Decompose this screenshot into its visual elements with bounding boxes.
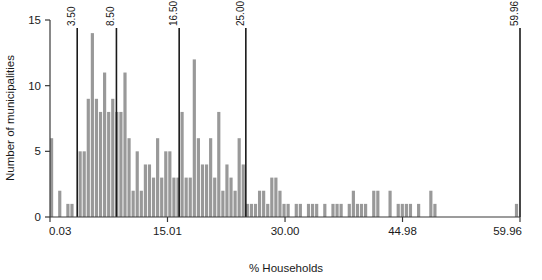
histogram-bar	[123, 73, 126, 217]
histogram-bar	[234, 191, 237, 217]
histogram-bar	[266, 204, 269, 217]
histogram-bar	[274, 178, 277, 217]
histogram-bar	[217, 112, 220, 217]
y-tick-label: 10	[28, 80, 41, 92]
class-break-labels: 3.508.5016.5025.0059.96	[66, 1, 520, 26]
histogram-bar	[401, 204, 404, 217]
histogram-bar	[152, 178, 155, 217]
histogram-bar	[83, 151, 86, 217]
histogram-bar	[58, 191, 61, 217]
histogram-bar	[295, 204, 298, 217]
y-tick-label: 15	[28, 14, 41, 26]
histogram-figure: 0510150.0315.0130.0044.9859.96 3.508.501…	[0, 0, 542, 280]
histogram-bar	[181, 112, 184, 217]
class-break-label: 59.96	[509, 1, 520, 26]
histogram-bar	[87, 99, 90, 217]
histogram-bar	[262, 191, 265, 217]
histogram-bar	[66, 204, 69, 217]
histogram-canvas: 0510150.0315.0130.0044.9859.96 3.508.501…	[0, 0, 542, 280]
y-axis-title: Number of municipalities	[4, 55, 16, 181]
x-tick-label: 30.00	[271, 225, 300, 237]
histogram-bar	[225, 164, 228, 217]
histogram-bar	[364, 204, 367, 217]
x-tick-label: 44.98	[388, 225, 417, 237]
histogram-bar	[335, 204, 338, 217]
histogram-bar	[221, 191, 224, 217]
class-break-lines	[77, 28, 520, 217]
histogram-bar	[254, 204, 257, 217]
histogram-bar	[99, 112, 102, 217]
histogram-bar	[144, 164, 147, 217]
histogram-bar	[91, 33, 94, 217]
histogram-bar	[111, 99, 114, 217]
histogram-bar	[250, 204, 253, 217]
histogram-bar	[172, 178, 175, 217]
histogram-bar	[205, 164, 208, 217]
x-tick-label: 15.01	[153, 225, 182, 237]
histogram-bar	[79, 151, 82, 217]
histogram-bar	[397, 204, 400, 217]
histogram-bar	[238, 138, 241, 217]
class-break-label: 16.50	[168, 1, 179, 26]
histogram-bar	[127, 138, 130, 217]
histogram-bar	[315, 204, 318, 217]
histogram-bar	[201, 164, 204, 217]
histogram-bar	[270, 178, 273, 217]
histogram-bar	[307, 204, 310, 217]
histogram-bar	[132, 191, 135, 217]
histogram-bar	[164, 151, 167, 217]
histogram-bar	[70, 204, 73, 217]
histogram-bar	[119, 112, 122, 217]
histogram-bar	[433, 204, 436, 217]
class-break-label: 8.50	[105, 6, 116, 26]
histogram-bar	[160, 178, 163, 217]
histogram-bar	[299, 204, 302, 217]
histogram-bar	[213, 178, 216, 217]
histogram-bar	[185, 178, 188, 217]
histogram-bar	[348, 204, 351, 217]
histogram-bar	[405, 204, 408, 217]
histogram-bar	[209, 138, 212, 217]
histogram-bar	[278, 191, 281, 217]
histogram-bar	[156, 138, 159, 217]
histogram-bar	[189, 178, 192, 217]
histogram-bar	[311, 204, 314, 217]
histogram-bar	[376, 191, 379, 217]
histogram-bar	[409, 204, 412, 217]
histogram-bar	[331, 204, 334, 217]
histogram-bar	[352, 191, 355, 217]
histogram-bar	[515, 204, 518, 217]
class-break-label: 3.50	[66, 6, 77, 26]
histogram-bar	[107, 112, 110, 217]
histogram-bar	[282, 204, 285, 217]
x-tick-label: 59.96	[493, 225, 522, 237]
histogram-bar	[388, 191, 391, 217]
x-tick-label: 0.03	[49, 225, 71, 237]
histogram-bar	[193, 59, 196, 217]
histogram-bar	[242, 164, 245, 217]
y-tick-label: 5	[35, 145, 41, 157]
histogram-bar	[372, 191, 375, 217]
histogram-bar	[360, 204, 363, 217]
x-axis-title: % Households	[249, 262, 323, 274]
histogram-bar	[323, 204, 326, 217]
histogram-bar	[197, 138, 200, 217]
histogram-bar	[103, 73, 106, 217]
histogram-bar	[140, 191, 143, 217]
histogram-bar	[229, 178, 232, 217]
histogram-bars	[50, 33, 518, 217]
histogram-bar	[287, 204, 290, 217]
y-tick-label: 0	[35, 211, 41, 223]
histogram-bar	[95, 99, 98, 217]
class-break-label: 25.00	[235, 1, 246, 26]
histogram-bar	[136, 151, 139, 217]
histogram-bar	[258, 191, 261, 217]
histogram-bar	[417, 204, 420, 217]
histogram-bar	[356, 204, 359, 217]
histogram-bar	[340, 204, 343, 217]
histogram-bar	[429, 191, 432, 217]
histogram-bar	[148, 164, 151, 217]
histogram-bar	[168, 151, 171, 217]
